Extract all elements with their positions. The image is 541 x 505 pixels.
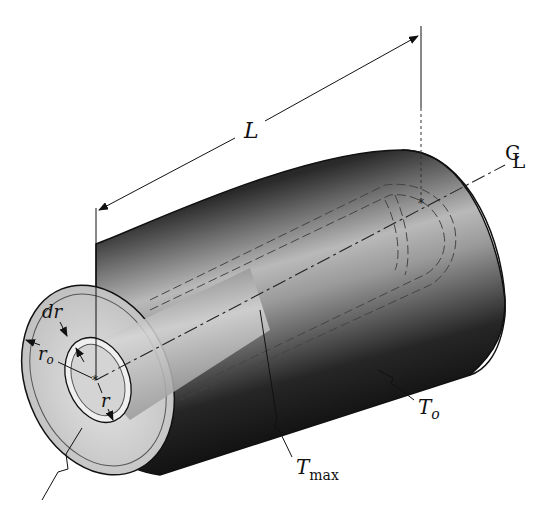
near-center-marker: * xyxy=(92,374,98,388)
surface-temp-label: To xyxy=(418,395,440,422)
dr-label: dr xyxy=(42,301,64,322)
length-label: L xyxy=(243,118,259,143)
cylinder-diagram: C L * * L dr ro r Tmax xyxy=(0,0,541,505)
max-temp-label: Tmax xyxy=(296,455,339,483)
centerline-label-l: L xyxy=(512,149,525,173)
inner-radius-label: r xyxy=(101,390,111,411)
